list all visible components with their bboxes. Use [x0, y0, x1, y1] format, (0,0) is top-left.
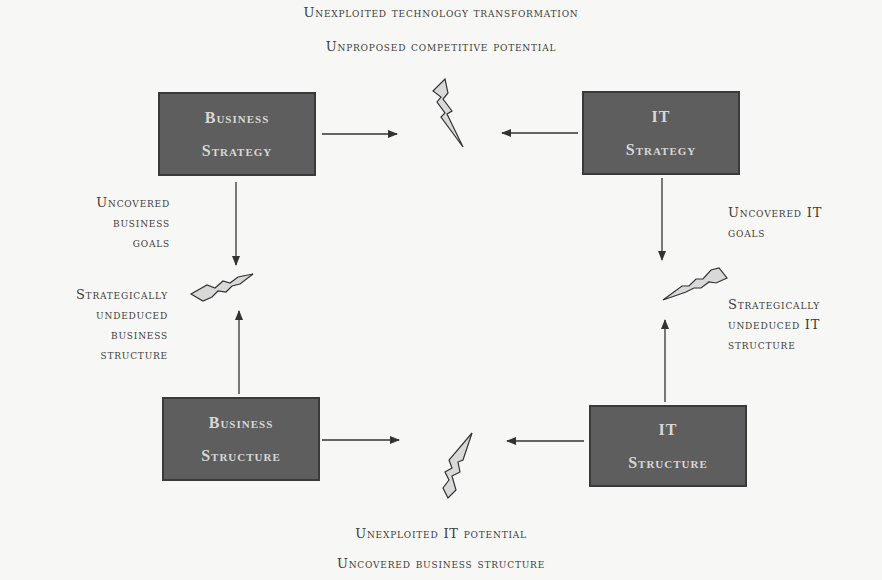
- lightning-bolt-icon: [191, 274, 253, 301]
- lightning-bolt-icon: [663, 268, 727, 300]
- lightning-bolt-icon: [443, 433, 472, 498]
- lightning-bolt-icon: [433, 79, 463, 147]
- connector-layer: [0, 0, 882, 580]
